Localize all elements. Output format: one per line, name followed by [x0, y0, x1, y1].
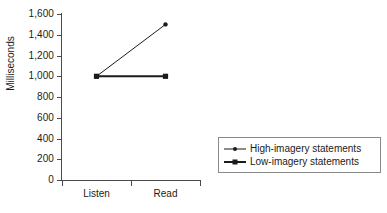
- y-axis-tick: [57, 76, 61, 77]
- x-axis-tick: [200, 181, 201, 186]
- legend-label-high-imagery: High-imagery statements: [250, 143, 361, 155]
- series-high-imagery: [94, 22, 167, 78]
- legend-item-high-imagery[interactable]: High-imagery statements: [224, 142, 374, 155]
- y-axis-tick-label: 1,000: [14, 71, 54, 81]
- y-axis-tick-label: 1,600: [14, 9, 54, 19]
- legend-label-low-imagery: Low-imagery statements: [250, 156, 359, 168]
- y-axis-tick-label: 0: [14, 175, 54, 185]
- data-point-marker: [163, 74, 168, 79]
- data-point-marker: [163, 22, 167, 26]
- chart-legend: High-imagery statements Low-imagery stat…: [218, 137, 381, 173]
- y-axis-line: [61, 13, 62, 181]
- y-axis-tick: [57, 139, 61, 140]
- series-layer: [0, 0, 387, 213]
- y-axis-tick-label: 400: [14, 134, 54, 144]
- x-axis-tick: [62, 181, 63, 186]
- y-axis-tick-label: 800: [14, 92, 54, 102]
- y-axis-tick: [57, 35, 61, 36]
- y-axis-tick-label: 1,200: [14, 51, 54, 61]
- y-axis-tick: [57, 118, 61, 119]
- y-axis-tick-label: 600: [14, 113, 54, 123]
- y-axis-tick: [57, 14, 61, 15]
- legend-item-low-imagery[interactable]: Low-imagery statements: [224, 155, 374, 168]
- data-point-marker: [94, 74, 98, 78]
- legend-swatch-high-imagery-icon: [224, 143, 246, 155]
- legend-swatch-low-imagery-icon: [224, 156, 246, 168]
- x-axis-category-label: Listen: [62, 188, 132, 199]
- x-axis-category-label: Read: [131, 188, 201, 199]
- chart-figure: Milliseconds 1,6001,4001,2001,0008006004…: [0, 0, 387, 213]
- y-axis-tick: [57, 97, 61, 98]
- y-axis-tick: [57, 56, 61, 57]
- series-line: [97, 24, 166, 76]
- series-low-imagery: [94, 74, 168, 79]
- y-axis-tick: [57, 159, 61, 160]
- data-point-marker: [94, 74, 99, 79]
- y-axis-tick-label: 1,400: [14, 30, 54, 40]
- x-axis-tick: [131, 181, 132, 186]
- y-axis-tick-label: 200: [14, 154, 54, 164]
- y-axis-tick: [57, 180, 61, 181]
